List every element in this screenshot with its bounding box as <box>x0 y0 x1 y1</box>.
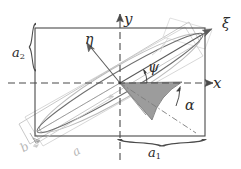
a2-base: a <box>12 45 20 60</box>
alpha-arc-arrowhead <box>177 86 181 91</box>
shaded-wedge <box>120 82 182 120</box>
psi-angle-label: ψ <box>148 60 159 74</box>
a2-dimension-label: a2 <box>12 46 25 60</box>
a1-base: a <box>148 145 156 160</box>
diagram-svg <box>0 0 241 169</box>
y-axis-arrowhead <box>117 14 124 22</box>
alpha-angle-arc <box>176 86 180 106</box>
y-axis-label: y <box>124 12 132 27</box>
origin-point <box>119 82 122 85</box>
y-axis <box>117 14 124 160</box>
a1-brace <box>119 139 204 147</box>
eta-axis-label: η <box>85 32 93 46</box>
a1-subscript: 1 <box>156 151 161 161</box>
alpha-angle-label: α <box>185 98 194 112</box>
xi-axis-arrowhead <box>202 29 212 37</box>
xi-axis <box>38 29 212 131</box>
figure-canvas: y x ξ η ψ α a2 a1 b a <box>0 0 241 169</box>
xi-axis-label: ξ <box>222 16 230 30</box>
x-axis <box>8 80 213 87</box>
x-axis-label: x <box>213 76 221 91</box>
psi-arc-arrowhead <box>144 70 147 75</box>
a1-dimension-label: a1 <box>148 146 161 160</box>
a2-subscript: 2 <box>20 51 25 61</box>
